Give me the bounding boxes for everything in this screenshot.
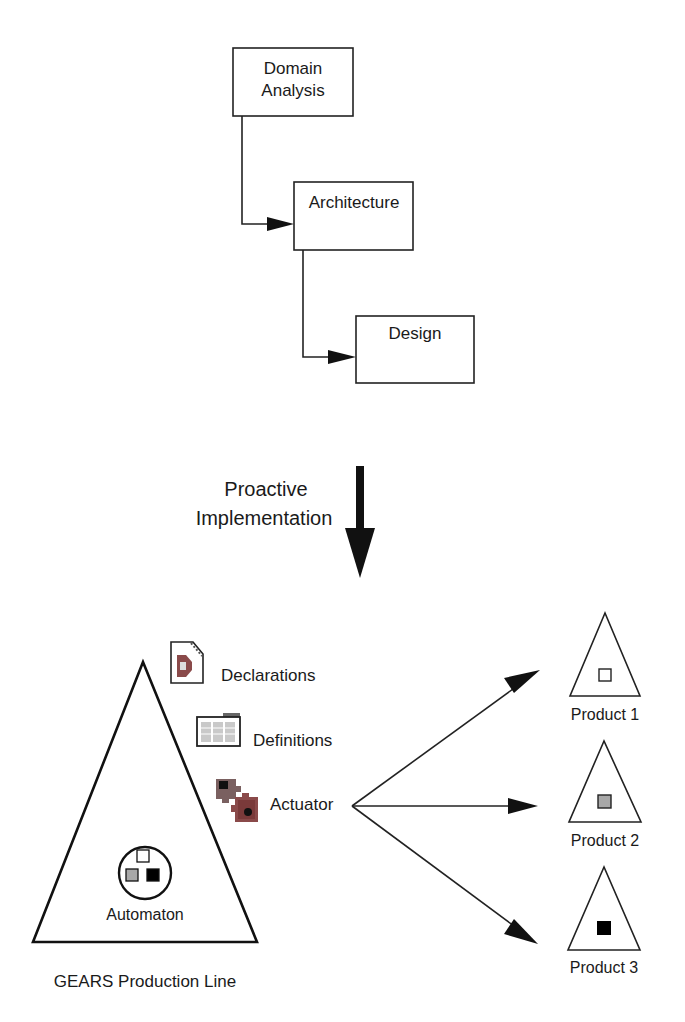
architecture-label: Architecture xyxy=(309,193,400,212)
product-arrows xyxy=(352,670,540,944)
automaton-label: Automaton xyxy=(106,906,183,923)
domain-analysis-line1: Domain xyxy=(264,59,323,78)
box-architecture: Architecture xyxy=(294,182,413,250)
arrowhead-icon xyxy=(267,217,294,231)
product-1: Product 1 xyxy=(570,613,640,723)
actuator-label: Actuator xyxy=(270,795,334,814)
diagram-canvas: Domain Analysis Architecture Design Proa… xyxy=(0,0,685,1022)
product-3: Product 3 xyxy=(568,867,640,976)
production-line-label: GEARS Production Line xyxy=(54,972,236,991)
connector-da-to-architecture xyxy=(242,116,294,231)
product-2: Product 2 xyxy=(569,741,641,849)
box-domain-analysis: Domain Analysis xyxy=(233,48,353,116)
transition-line1: Proactive xyxy=(224,478,307,500)
artifact-actuator: Actuator xyxy=(216,779,334,822)
black-square-icon xyxy=(147,869,159,881)
gray-square-icon xyxy=(126,869,138,881)
white-square-icon xyxy=(137,850,149,862)
arrow-to-product-3 xyxy=(352,806,522,932)
proactive-implementation-transition: Proactive Implementation xyxy=(196,466,375,578)
transition-line2: Implementation xyxy=(196,507,333,529)
design-label: Design xyxy=(389,324,442,343)
artifact-declarations: Declarations xyxy=(171,642,316,685)
process-flow: Domain Analysis Architecture Design xyxy=(233,48,474,383)
white-square-icon xyxy=(599,669,611,681)
product-2-label: Product 2 xyxy=(571,832,640,849)
domain-analysis-line2: Analysis xyxy=(261,81,324,100)
down-arrow-shaft xyxy=(356,466,364,530)
artifact-definitions: Definitions xyxy=(197,713,332,750)
box-design: Design xyxy=(356,316,474,383)
gears-production-line: Automaton GEARS Production Line xyxy=(33,662,257,991)
declarations-label: Declarations xyxy=(221,666,316,685)
black-square-icon xyxy=(597,921,611,935)
arrowhead-icon xyxy=(328,350,356,364)
arrow-to-product-1 xyxy=(352,681,524,806)
arrowhead-icon xyxy=(508,798,538,814)
down-arrow-icon xyxy=(345,528,375,578)
product-3-label: Product 3 xyxy=(570,959,639,976)
definitions-folder-icon xyxy=(197,713,240,746)
gray-square-icon xyxy=(598,795,611,808)
declarations-document-icon xyxy=(171,642,203,683)
connector-architecture-to-design xyxy=(303,250,356,364)
arrowhead-icon xyxy=(504,670,540,693)
definitions-label: Definitions xyxy=(253,731,332,750)
product-1-label: Product 1 xyxy=(571,706,640,723)
actuator-puzzle-icon xyxy=(216,779,258,822)
